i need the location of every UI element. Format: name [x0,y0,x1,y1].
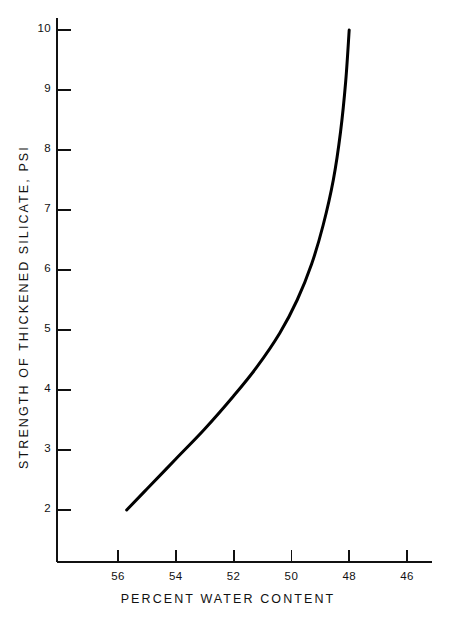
x-axis-tick-label: 48 [334,570,364,582]
data-series-layer [127,30,350,510]
y-axis-title: STRENGTH OF THICKENED SILICATE, PSI [17,97,31,517]
x-axis-tick-label: 50 [276,570,306,582]
y-axis-tick-label: 10 [25,22,51,34]
x-axis-tick-label: 54 [161,570,191,582]
y-axis-tick-label: 9 [25,82,51,94]
figure-panel: 2345678910 565452504846 STRENGTH OF THIC… [0,0,456,628]
axis-layer [57,18,432,562]
x-axis-title: PERCENT WATER CONTENT [0,592,456,606]
x-axis-tick-label: 46 [392,570,422,582]
data-curve-0 [127,30,350,510]
x-axis-tick-label: 56 [103,570,133,582]
chart-plot-area [0,0,456,628]
x-axis-tick-label: 52 [219,570,249,582]
